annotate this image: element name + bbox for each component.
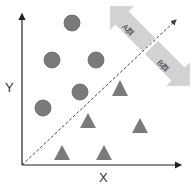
group-b-triangles xyxy=(54,80,148,160)
double-arrow-icon xyxy=(99,0,194,97)
y-axis-label: Y xyxy=(5,80,14,95)
classification-diagram xyxy=(0,0,194,188)
group-a-circles xyxy=(35,15,104,116)
separator-line xyxy=(22,20,176,165)
x-axis-label: X xyxy=(99,170,108,185)
